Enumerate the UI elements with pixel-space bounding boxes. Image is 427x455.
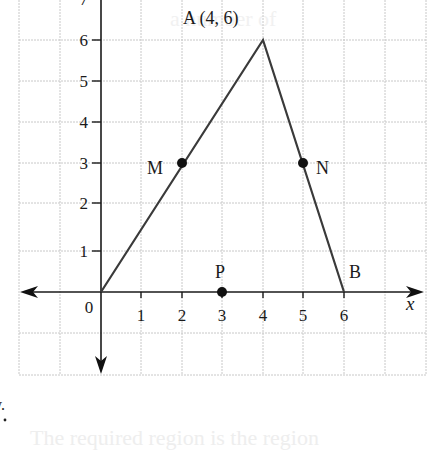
x-tick-label-5: 5 bbox=[299, 306, 308, 325]
y-tick-label-1: 1 bbox=[80, 242, 89, 261]
x-tick-label-4: 4 bbox=[259, 306, 268, 325]
point-P-label: P bbox=[215, 262, 225, 282]
y-ticks bbox=[92, 40, 101, 251]
y-tick-label-4: 4 bbox=[80, 113, 89, 132]
point-M bbox=[177, 158, 187, 168]
bullet-icon bbox=[4, 419, 7, 422]
y-tick-label-2: 2 bbox=[80, 194, 89, 213]
y-tick-label-5: 5 bbox=[80, 72, 89, 91]
x-tick-label-2: 2 bbox=[178, 306, 187, 325]
x-tick-label-6: 6 bbox=[340, 306, 349, 325]
footer-fragment-1: y. bbox=[0, 396, 5, 414]
footer-fragment-faint: The required region is the region bbox=[30, 425, 319, 451]
point-M-label: M bbox=[147, 158, 163, 178]
x-axis-label: x bbox=[405, 293, 415, 314]
x-ticks bbox=[141, 292, 344, 298]
coordinate-plane: 1 2 3 4 5 6 0 1 2 3 4 5 6 7 x A (4, 6) M… bbox=[0, 0, 427, 455]
y-tick-label-3: 3 bbox=[80, 154, 89, 173]
point-A-label: A (4, 6) bbox=[183, 8, 239, 29]
point-P bbox=[217, 287, 227, 297]
point-B-label: B bbox=[349, 262, 361, 282]
y-tick-label-7: 7 bbox=[80, 0, 89, 9]
y-tick-label-6: 6 bbox=[80, 31, 89, 50]
point-N bbox=[298, 158, 308, 168]
x-tick-label-1: 1 bbox=[137, 306, 146, 325]
origin-label: 0 bbox=[85, 298, 94, 317]
x-tick-label-3: 3 bbox=[218, 306, 227, 325]
point-N-label: N bbox=[316, 158, 329, 178]
